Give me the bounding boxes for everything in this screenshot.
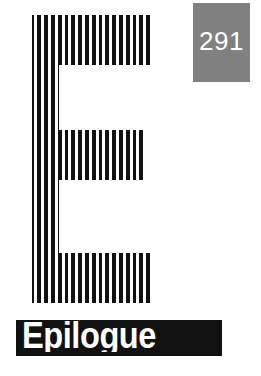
chapter-opener-page: 291 Epilogue bbox=[0, 0, 261, 376]
stripe bbox=[68, 0, 71, 322]
stripe bbox=[48, 0, 51, 322]
stripe bbox=[89, 0, 92, 322]
stripe bbox=[123, 0, 126, 322]
stripe bbox=[150, 0, 153, 322]
stripe bbox=[130, 0, 133, 322]
stripe bbox=[82, 0, 85, 322]
stripe bbox=[75, 0, 78, 322]
stripe bbox=[143, 0, 146, 322]
stripe bbox=[109, 0, 112, 322]
stripe bbox=[34, 0, 37, 322]
stripe bbox=[28, 0, 31, 322]
striped-letter-e-artwork bbox=[0, 0, 261, 322]
chapter-title-text: Epilogue bbox=[22, 320, 156, 352]
stripe bbox=[14, 0, 17, 322]
stripe bbox=[116, 0, 119, 322]
stripe bbox=[21, 0, 24, 322]
stripe bbox=[102, 0, 105, 322]
stripe bbox=[62, 0, 65, 322]
chapter-title-rule bbox=[16, 352, 222, 356]
chapter-title-bar: Epilogue bbox=[16, 320, 222, 352]
stripe bbox=[96, 0, 99, 322]
stripe bbox=[41, 0, 44, 322]
vertical-stripe-overlay bbox=[14, 0, 164, 322]
stripe bbox=[136, 0, 139, 322]
stripe bbox=[55, 0, 58, 322]
stripe bbox=[157, 0, 160, 322]
